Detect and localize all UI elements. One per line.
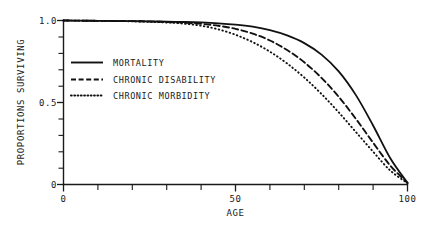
x-axis-title: AGE <box>226 208 244 218</box>
curve-mortality <box>64 21 408 183</box>
y-tick-label-1.0: 1.0 <box>39 16 57 26</box>
y-tick-label-0.5: 0.5 <box>39 98 57 108</box>
legend-label-chronic-disability: CHRONIC DISABILITY <box>113 75 216 85</box>
legend-label-chronic-morbidity: CHRONIC MORBIDITY <box>113 91 210 101</box>
x-axis-ticks <box>64 185 408 192</box>
legend: MORTALITY CHRONIC DISABILITY CHRONIC MOR… <box>71 58 216 101</box>
x-tick-label-100: 100 <box>398 194 416 204</box>
curve-chronic-disability <box>64 21 408 183</box>
survival-curves-figure: PROPORTIONS SURVIVING 1.0 0.5 0 <box>0 0 430 225</box>
curve-chronic-morbidity <box>64 21 408 184</box>
x-tick-label-50: 50 <box>229 194 241 204</box>
chart-canvas: PROPORTIONS SURVIVING 1.0 0.5 0 <box>0 0 430 225</box>
x-tick-label-0: 0 <box>60 194 66 204</box>
legend-label-mortality: MORTALITY <box>113 58 164 68</box>
y-tick-label-0: 0 <box>51 180 57 190</box>
y-axis-title: PROPORTIONS SURVIVING <box>16 39 26 165</box>
y-axis-ticks <box>57 21 64 185</box>
